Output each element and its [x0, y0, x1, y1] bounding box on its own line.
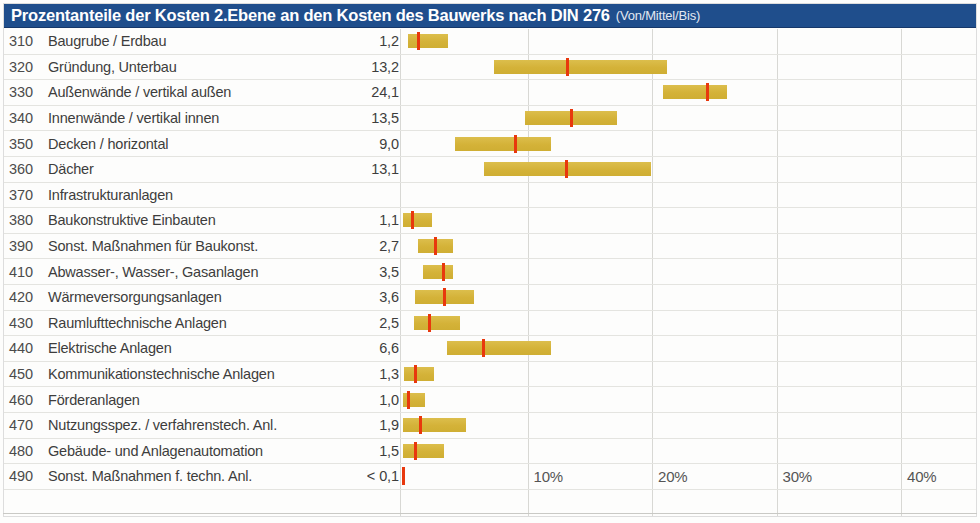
bar-mean-marker	[407, 391, 410, 409]
row-value: 13,1	[303, 161, 399, 177]
bar-mean-marker	[428, 314, 431, 332]
row-code: 430	[9, 315, 33, 331]
axis-tick-20: 20%	[658, 468, 687, 485]
row-value: 1,0	[303, 392, 399, 408]
bar-mean-marker	[411, 211, 414, 229]
axis-tick-40: 40%	[907, 468, 936, 485]
table-row[interactable]: 320Gründung, Unterbau13,2	[3, 55, 977, 81]
row-label: Außenwände / vertikal außen	[48, 84, 231, 100]
chart-rows: 310Baugrube / Erdbau1,2320Gründung, Unte…	[3, 29, 977, 490]
table-row[interactable]: 310Baugrube / Erdbau1,2	[3, 29, 977, 55]
row-code: 450	[9, 366, 33, 382]
row-label: Förderanlagen	[48, 392, 140, 408]
row-value: 24,1	[303, 84, 399, 100]
table-row[interactable]: 340Innenwände / vertikal innen13,5	[3, 106, 977, 132]
bar-range	[494, 60, 667, 74]
table-row[interactable]: 430Raumlufttechnische Anlagen2,5	[3, 311, 977, 337]
bar-mean-marker	[443, 288, 446, 306]
bar-range	[455, 137, 551, 151]
table-row[interactable]: 410Abwasser-, Wasser-, Gasanlagen3,5	[3, 259, 977, 285]
axis-tick-10: 10%	[534, 468, 563, 485]
row-value: 1,9	[303, 417, 399, 433]
row-label: Kommunikationstechnische Anlagen	[48, 366, 275, 382]
bar-mean-marker	[482, 339, 485, 357]
row-value: 3,5	[303, 264, 399, 280]
row-label: Baukonstruktive Einbauten	[48, 212, 216, 228]
bar-mean-marker	[566, 58, 569, 76]
table-row[interactable]: 350Decken / horizontal9,0	[3, 131, 977, 157]
row-value: 9,0	[303, 136, 399, 152]
table-row[interactable]: 460Förderanlagen1,0	[3, 387, 977, 413]
bar-mean-marker	[706, 83, 709, 101]
row-label: Nutzungsspez. / verfahrenstech. Anl.	[48, 417, 277, 433]
row-value: 1,1	[303, 212, 399, 228]
row-label: Baugrube / Erdbau	[48, 33, 166, 49]
bar-range	[403, 213, 432, 227]
row-value: 1,3	[303, 366, 399, 382]
table-row[interactable]: 470Nutzungsspez. / verfahrenstech. Anl.1…	[3, 413, 977, 439]
row-label: Wärmeversorgungsanlagen	[48, 289, 222, 305]
bar-range	[408, 34, 448, 48]
row-label: Gebäude- und Anlagenautomation	[48, 443, 263, 459]
table-row[interactable]: 420Wärmeversorgungsanlagen3,6	[3, 285, 977, 311]
bar-range	[403, 418, 466, 432]
row-value: 2,7	[303, 238, 399, 254]
row-code: 320	[9, 59, 33, 75]
bar-mean-marker	[514, 135, 517, 153]
bar-mean-marker	[434, 237, 437, 255]
row-code: 340	[9, 110, 33, 126]
row-value: 3,6	[303, 289, 399, 305]
row-code: 410	[9, 264, 33, 280]
bar-range	[404, 367, 434, 381]
table-row[interactable]: 370Infrastrukturanlagen	[3, 183, 977, 209]
row-label: Gründung, Unterbau	[48, 59, 177, 75]
bar-mean-marker	[419, 416, 422, 434]
row-label: Decken / horizontal	[48, 136, 168, 152]
row-code: 370	[9, 187, 33, 203]
row-label: Raumlufttechnische Anlagen	[48, 315, 227, 331]
page-subtitle: (Von/Mittel/Bis)	[616, 8, 700, 23]
table-row[interactable]: 390Sonst. Maßnahmen für Baukonst.2,7	[3, 234, 977, 260]
bar-mean-marker	[442, 263, 445, 281]
table-row[interactable]: 380Baukonstruktive Einbauten1,1	[3, 208, 977, 234]
row-code: 350	[9, 136, 33, 152]
row-label: Infrastrukturanlagen	[48, 187, 173, 203]
row-label: Innenwände / vertikal innen	[48, 110, 219, 126]
row-value: 1,5	[303, 443, 399, 459]
row-value: 13,5	[303, 110, 399, 126]
row-label: Dächer	[48, 161, 94, 177]
row-value: 2,5	[303, 315, 399, 331]
row-code: 310	[9, 33, 33, 49]
x-axis-labels: 10%20%30%40%	[3, 468, 977, 492]
bar-mean-marker	[570, 109, 573, 127]
bar-range	[414, 316, 460, 330]
row-value: 1,2	[303, 33, 399, 49]
table-row[interactable]: 450Kommunikationstechnische Anlagen1,3	[3, 362, 977, 388]
bar-mean-marker	[417, 32, 420, 50]
table-row[interactable]: 330Außenwände / vertikal außen24,1	[3, 80, 977, 106]
chart-title-bar: Prozentanteile der Kosten 2.Ebene an den…	[3, 3, 977, 28]
row-code: 460	[9, 392, 33, 408]
row-code: 360	[9, 161, 33, 177]
axis-baseline	[3, 513, 977, 514]
axis-tick-30: 30%	[783, 468, 812, 485]
bar-range	[447, 341, 552, 355]
row-code: 330	[9, 84, 33, 100]
bar-mean-marker	[414, 442, 417, 460]
chart-container: Prozentanteile der Kosten 2.Ebene an den…	[0, 0, 980, 523]
row-code: 480	[9, 443, 33, 459]
bar-range	[423, 265, 453, 279]
row-code: 390	[9, 238, 33, 254]
table-row[interactable]: 440Elektrische Anlagen6,6	[3, 336, 977, 362]
table-row[interactable]: 360Dächer13,1	[3, 157, 977, 183]
table-row[interactable]: 480Gebäude- und Anlagenautomation1,5	[3, 439, 977, 465]
row-code: 440	[9, 340, 33, 356]
page-title: Prozentanteile der Kosten 2.Ebene an den…	[11, 6, 610, 25]
row-code: 470	[9, 417, 33, 433]
row-code: 380	[9, 212, 33, 228]
bar-mean-marker	[565, 160, 568, 178]
bar-mean-marker	[414, 365, 417, 383]
row-value: 6,6	[303, 340, 399, 356]
row-label: Abwasser-, Wasser-, Gasanlagen	[48, 264, 258, 280]
bar-range	[403, 444, 444, 458]
